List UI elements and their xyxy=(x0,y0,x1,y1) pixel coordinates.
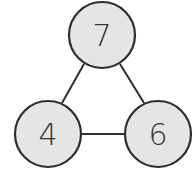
triangle-graph-diagram: 7 4 6 xyxy=(0,0,196,182)
edge-top-bottom-left xyxy=(62,64,84,103)
node-bottom-left-label: 4 xyxy=(38,117,57,152)
node-bottom-right: 6 xyxy=(125,101,191,167)
node-bottom-right-label: 6 xyxy=(148,117,167,152)
node-bottom-left: 4 xyxy=(15,101,81,167)
edge-top-bottom-right xyxy=(120,64,144,103)
node-top: 7 xyxy=(69,2,135,68)
node-top-label: 7 xyxy=(92,18,111,53)
